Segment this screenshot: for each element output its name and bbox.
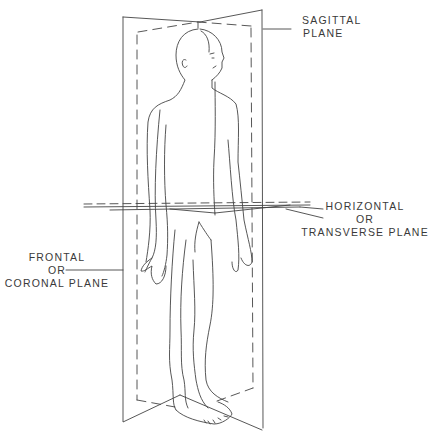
frontal-label-line2: OR [2, 264, 112, 277]
horizontal-plane [84, 202, 323, 218]
horizontal-label-line3: TRANSVERSE PLANE [300, 226, 430, 239]
dashed-plane [137, 22, 253, 407]
frontal-label-line1: FRONTAL [2, 251, 112, 264]
frontal-plane-label: FRONTAL OR CORONAL PLANE [2, 251, 112, 290]
sagittal-label-line1: SAGITTAL [302, 14, 362, 27]
human-figure [141, 29, 252, 424]
sagittal-plane-label: SAGITTAL PLANE [302, 14, 362, 40]
horizontal-plane-label: HORIZONTAL OR TRANSVERSE PLANE [300, 200, 430, 239]
sagittal-plane [198, 10, 291, 428]
frontal-plane [123, 17, 262, 430]
horizontal-label-line1: HORIZONTAL [300, 200, 430, 213]
sagittal-label-line2: PLANE [302, 27, 362, 40]
horizontal-label-line2: OR [300, 213, 430, 226]
anatomical-planes-diagram: SAGITTAL PLANE HORIZONTAL OR TRANSVERSE … [0, 0, 430, 447]
frontal-label-line3: CORONAL PLANE [2, 277, 112, 290]
